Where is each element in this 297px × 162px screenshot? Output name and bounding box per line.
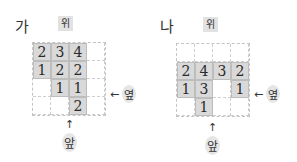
top-view-tag: 위	[203, 17, 218, 32]
side-view-indicator: ← 옆	[110, 85, 136, 103]
empty-cell	[231, 44, 249, 62]
stack-cell: 2	[33, 43, 51, 61]
arrow-up-icon: ↑	[208, 122, 217, 134]
stack-cell: 2	[231, 62, 249, 80]
stack-cell: 2	[69, 61, 87, 79]
empty-cell	[213, 44, 231, 62]
stack-cell: 2	[51, 61, 69, 79]
stack-cell: 4	[69, 43, 87, 61]
panel-label: 가	[15, 15, 29, 36]
stack-cell: 3	[195, 80, 213, 98]
stack-cell: 2	[177, 62, 195, 80]
empty-cell	[51, 97, 69, 115]
empty-cell	[87, 43, 105, 61]
empty-cell	[87, 97, 105, 115]
stack-cell: 3	[51, 43, 69, 61]
side-view-indicator: ← 옆	[254, 85, 280, 103]
empty-cell	[87, 61, 105, 79]
side-label: 옆	[122, 85, 136, 103]
front-view-indicator: ↑ 앞	[205, 122, 220, 155]
stack-cell: 1	[195, 98, 213, 116]
front-label: 앞	[62, 133, 77, 152]
empty-cell	[213, 80, 231, 98]
empty-cell	[195, 44, 213, 62]
stack-cell: 4	[195, 62, 213, 80]
stack-cell: 1	[51, 79, 69, 97]
top-view-grid: 234122112	[32, 42, 106, 116]
panel-label: 나	[160, 15, 174, 36]
front-label: 앞	[205, 136, 220, 155]
arrow-left-icon: ←	[254, 88, 263, 101]
stack-cell: 1	[231, 80, 249, 98]
side-label: 옆	[266, 85, 280, 103]
stack-cell: 2	[69, 97, 87, 115]
empty-cell	[213, 98, 231, 116]
empty-cell	[87, 79, 105, 97]
arrow-left-icon: ←	[110, 88, 119, 101]
empty-cell	[33, 79, 51, 97]
empty-cell	[33, 97, 51, 115]
empty-cell	[177, 44, 195, 62]
arrow-up-icon: ↑	[65, 119, 74, 131]
stack-cell: 1	[69, 79, 87, 97]
stack-cell: 1	[177, 80, 195, 98]
top-view-grid: 24321311	[176, 43, 250, 117]
front-view-indicator: ↑ 앞	[62, 119, 77, 152]
stack-cell: 1	[33, 61, 51, 79]
top-view-tag: 위	[58, 16, 73, 31]
empty-cell	[177, 98, 195, 116]
stack-cell: 3	[213, 62, 231, 80]
empty-cell	[231, 98, 249, 116]
